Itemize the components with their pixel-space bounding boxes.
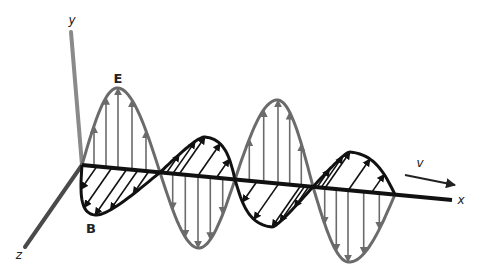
x-axis: [82, 165, 452, 200]
e-field-label: E: [114, 71, 123, 86]
velocity-arrow-icon: [405, 175, 455, 185]
velocity-label: v: [416, 156, 424, 170]
z-axis-label: z: [15, 248, 23, 262]
y-axis: [71, 32, 82, 165]
em-wave-diagram: E B y z v x: [0, 0, 478, 277]
b-field-vector-icon: [81, 166, 97, 189]
diagram-canvas: E B y z v x: [0, 0, 478, 277]
y-axis-label: y: [67, 13, 76, 27]
axes: [25, 32, 82, 247]
b-field-vector-icon: [198, 144, 220, 176]
b-field-vector-icon: [216, 159, 229, 178]
x-axis-label: x: [456, 193, 465, 207]
b-field-vector-icon: [372, 174, 385, 192]
z-axis: [25, 165, 82, 247]
b-field-label: B: [86, 221, 96, 236]
b-field-vector-icon: [110, 170, 138, 210]
b-field-vector-icon: [84, 168, 112, 208]
b-field-vector-icon: [254, 184, 279, 220]
electric-field-wave: [82, 88, 395, 262]
b-field-vector-icon: [348, 159, 370, 190]
b-field-vector-icon: [243, 182, 257, 203]
